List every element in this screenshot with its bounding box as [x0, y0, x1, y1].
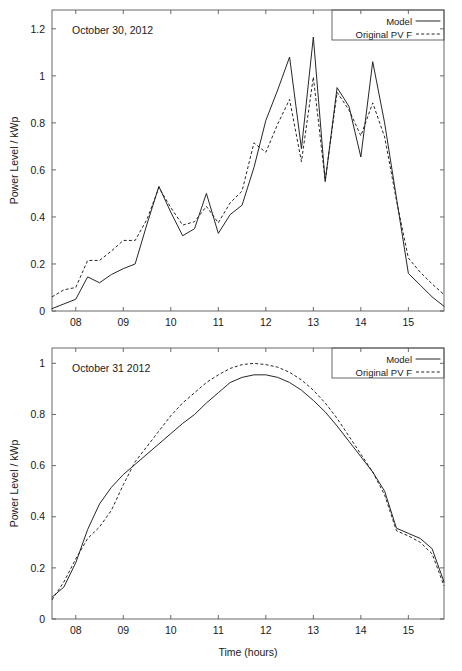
y-tick-label: 0.8	[30, 408, 45, 420]
chart-panel-october-31: 00.20.40.60.810809101112131415Power Leve…	[0, 340, 462, 671]
x-tick-label: 14	[355, 316, 367, 328]
y-axis-title: Power Level / kWp	[8, 440, 20, 528]
y-tick-label: 1	[39, 357, 45, 369]
series-line-original-pv-f	[52, 363, 444, 599]
y-tick-label: 1	[39, 70, 45, 82]
y-tick-label: 0.4	[30, 510, 45, 522]
series-line-model	[52, 375, 444, 597]
y-tick-label: 0	[39, 305, 45, 317]
chart-date-annotation: October 31 2012	[72, 362, 150, 374]
x-tick-label: 13	[307, 624, 319, 636]
figure-container: 00.20.40.60.811.20809101112131415Power L…	[0, 0, 462, 671]
chart-svg-top: 00.20.40.60.811.20809101112131415Power L…	[0, 0, 462, 340]
legend-label-original-pv-f: Original PV F	[356, 29, 413, 40]
x-tick-label: 08	[70, 624, 82, 636]
x-tick-label: 11	[213, 624, 224, 636]
y-tick-label: 0.8	[30, 117, 45, 129]
x-tick-label: 09	[117, 624, 129, 636]
legend-label-model: Model	[386, 354, 412, 365]
x-tick-label: 09	[117, 316, 129, 328]
plot-frame	[52, 10, 444, 311]
chart-svg-bottom: 00.20.40.60.810809101112131415Power Leve…	[0, 340, 462, 671]
x-tick-label: 15	[403, 316, 415, 328]
y-tick-label: 0.6	[30, 164, 45, 176]
y-axis-title: Power Level / kWp	[8, 117, 20, 205]
series-line-model	[52, 37, 444, 309]
x-tick-label: 14	[355, 624, 367, 636]
x-tick-label: 12	[260, 624, 272, 636]
y-tick-label: 0	[39, 613, 45, 625]
x-tick-label: 08	[70, 316, 82, 328]
x-tick-label: 11	[213, 316, 224, 328]
x-tick-label: 12	[260, 316, 272, 328]
y-tick-label: 0.2	[30, 258, 45, 270]
x-tick-label: 10	[165, 316, 177, 328]
x-tick-label: 10	[165, 624, 177, 636]
x-tick-label: 15	[403, 624, 415, 636]
legend-label-model: Model	[386, 16, 412, 27]
y-tick-label: 0.2	[30, 562, 45, 574]
y-tick-label: 0.6	[30, 459, 45, 471]
y-tick-label: 1.2	[30, 23, 45, 35]
y-tick-label: 0.4	[30, 211, 45, 223]
chart-panel-october-30: 00.20.40.60.811.20809101112131415Power L…	[0, 0, 462, 340]
plot-frame	[52, 348, 444, 619]
x-tick-label: 13	[307, 316, 319, 328]
chart-date-annotation: October 30, 2012	[72, 24, 153, 36]
x-axis-title: Time (hours)	[218, 646, 277, 658]
legend-label-original-pv-f: Original PV F	[356, 367, 413, 378]
